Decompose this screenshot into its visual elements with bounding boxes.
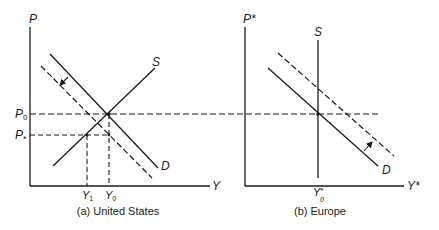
demand-curve-europe (268, 68, 378, 166)
equilibrium-point-europe (316, 112, 320, 116)
excess-point-us (108, 134, 111, 137)
aggregate-supply-demand-diagram: P Y S D P0 P* Y1 (0, 0, 439, 230)
y0star-subscript: 0 (320, 196, 324, 203)
price-axis-label-us: P (29, 12, 37, 26)
y0-label: Y0 (105, 189, 116, 202)
shifted-demand-curve-europe (278, 53, 394, 156)
supply-curve-us (53, 68, 155, 166)
y1-label: Y1 (82, 189, 93, 202)
caption-us: (a) United States (77, 205, 160, 217)
output-axis-label-us: Y (212, 179, 221, 193)
p0-label: P0 (15, 107, 28, 122)
demand-label-europe: D (382, 163, 391, 177)
caption-europe: (b) Europe (294, 205, 346, 217)
supply-label-europe: S (314, 25, 322, 39)
new-equilibrium-point-us (86, 134, 89, 137)
demand-label-us: D (161, 159, 170, 173)
equilibrium-point-us (107, 112, 111, 116)
demand-curve-us (50, 54, 158, 168)
output-axis-label-europe: Y* (407, 179, 420, 193)
demand-shift-arrow-europe (364, 142, 372, 151)
supply-label-us: S (152, 55, 160, 69)
pstar-label: P* (15, 128, 27, 144)
demand-shift-arrow-us (60, 77, 68, 85)
price-axis-label-europe: P* (243, 12, 256, 26)
